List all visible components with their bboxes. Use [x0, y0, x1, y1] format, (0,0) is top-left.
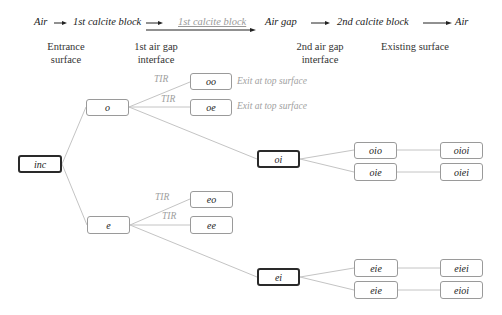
tir-label-oe: TIR: [161, 94, 175, 104]
node-oo: oo: [190, 73, 232, 90]
exit-label-oo: Exit at top surface: [237, 76, 307, 86]
flow-2nd-calcite-block: 2nd calcite block: [337, 16, 409, 27]
flow-air-gap: Air gap: [265, 16, 297, 27]
exit-label-oe: Exit at top surface: [237, 101, 307, 111]
column-entrance-surface: Entrance surface: [30, 40, 102, 66]
node-ei: ei: [257, 268, 300, 286]
flow-air-end: Air: [455, 16, 468, 27]
node-o: o: [86, 99, 129, 116]
column-2nd-air-gap-interface: 2nd air gap interface: [280, 40, 360, 66]
node-eioi: eioi: [440, 281, 483, 299]
node-oi: oi: [257, 150, 300, 168]
node-ee: ee: [190, 216, 233, 234]
node-oe: oe: [190, 99, 232, 116]
node-oio: oio: [354, 142, 397, 159]
node-eo: eo: [190, 191, 233, 208]
column-existing-surface: Existing surface: [370, 40, 460, 53]
node-oiei: oiei: [440, 163, 483, 181]
node-eie-bottom: eie: [354, 281, 398, 299]
flow-air-start: Air: [34, 16, 47, 27]
node-eiei: eiei: [440, 259, 483, 277]
node-oie: oie: [354, 163, 397, 181]
tir-label-eo: TIR: [155, 192, 169, 202]
node-inc: inc: [18, 155, 62, 173]
column-1st-air-gap-interface: 1st air gap interface: [120, 40, 192, 66]
tir-label-ee: TIR: [162, 211, 176, 221]
flow-1st-calcite-block: 1st calcite block: [73, 16, 141, 27]
tir-label-oo: TIR: [154, 74, 168, 84]
node-oioi: oioi: [440, 142, 483, 159]
flow-1st-calcite-block-reflected: 1st calcite block: [178, 16, 246, 27]
node-e: e: [87, 216, 130, 234]
node-eie-top: eie: [354, 259, 398, 277]
